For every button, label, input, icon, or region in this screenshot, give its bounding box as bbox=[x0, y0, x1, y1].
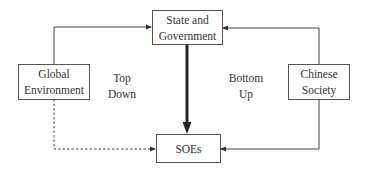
label-bottom-up-line1: Bottom bbox=[226, 70, 266, 86]
label-bottom-up: Bottom Up bbox=[226, 70, 266, 102]
arrowhead-state-to-soes bbox=[183, 122, 192, 134]
arrow-global-to-state bbox=[54, 27, 151, 64]
label-top-down-line2: Down bbox=[105, 86, 139, 102]
node-state-line2: Government bbox=[159, 28, 216, 44]
node-society-line1: Chinese bbox=[300, 66, 337, 82]
node-global-line1: Global bbox=[38, 66, 69, 82]
node-global-line2: Environment bbox=[24, 82, 84, 98]
node-society-line2: Society bbox=[302, 82, 337, 98]
node-chinese-society: Chinese Society bbox=[288, 64, 350, 100]
arrow-society-to-state bbox=[223, 28, 319, 64]
arrow-society-to-soes bbox=[221, 99, 319, 149]
label-bottom-up-line2: Up bbox=[226, 86, 266, 102]
node-state-line1: State and bbox=[166, 12, 208, 28]
node-soes: SOEs bbox=[156, 134, 221, 163]
label-top-down-line1: Top bbox=[105, 70, 139, 86]
node-state-and-government: State and Government bbox=[152, 10, 223, 45]
node-soes-label: SOEs bbox=[175, 141, 201, 157]
node-global-environment: Global Environment bbox=[18, 64, 90, 100]
arrow-global-to-soes-dashed bbox=[54, 99, 155, 149]
label-top-down: Top Down bbox=[105, 70, 139, 102]
